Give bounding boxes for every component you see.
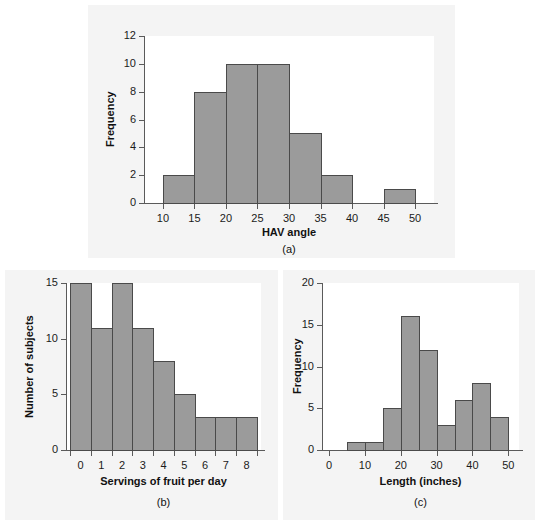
x-tick-label-a-8: 50 (400, 212, 430, 224)
bar (195, 417, 217, 451)
y-tick-a-5 (139, 64, 144, 65)
bar (215, 417, 237, 451)
x-tick-a-2 (226, 204, 227, 209)
y-axis-line-c (322, 283, 323, 451)
x-tick-label-c-4: 40 (457, 459, 487, 471)
y-tick-a-6 (139, 36, 144, 37)
x-tick-b-4 (153, 451, 154, 456)
y-tick-label-b-1: 5 (26, 387, 58, 399)
panel-caption-c: (c) (262, 496, 542, 508)
bar (419, 350, 438, 451)
x-tick-c-5 (508, 451, 509, 456)
bar (347, 442, 366, 451)
bar (174, 394, 196, 451)
bar (365, 442, 384, 451)
x-tick-b-9 (257, 451, 258, 456)
bar (437, 425, 456, 451)
y-tick-label-a-6: 12 (104, 29, 136, 41)
y-tick-a-3 (139, 120, 144, 121)
bar (321, 175, 354, 204)
y-tick-label-c-2: 10 (282, 360, 314, 372)
y-tick-b-3 (61, 283, 66, 284)
x-tick-b-6 (195, 451, 196, 456)
x-tick-a-6 (352, 204, 353, 209)
y-tick-a-2 (139, 147, 144, 148)
x-tick-label-a-3: 25 (242, 212, 272, 224)
bar (401, 316, 420, 451)
y-tick-label-c-1: 5 (282, 401, 314, 413)
x-tick-c-0 (329, 451, 330, 456)
x-tick-b-7 (215, 451, 216, 456)
x-tick-label-b-8: 8 (231, 459, 261, 471)
y-tick-b-1 (61, 394, 66, 395)
y-tick-label-a-2: 4 (104, 140, 136, 152)
x-tick-label-a-6: 40 (337, 212, 367, 224)
bar (289, 133, 322, 204)
x-tick-c-3 (437, 451, 438, 456)
x-tick-a-8 (415, 204, 416, 209)
bar (112, 283, 134, 451)
y-tick-label-b-2: 10 (26, 332, 58, 344)
bar (70, 283, 92, 451)
y-tick-a-4 (139, 92, 144, 93)
panel-caption-a: (a) (84, 243, 494, 255)
x-tick-b-3 (132, 451, 133, 456)
x-tick-label-c-0: 0 (314, 459, 344, 471)
y-tick-b-2 (61, 339, 66, 340)
chart-panel-a: Frequency HAV angle (a) 0246810121015202… (88, 5, 455, 258)
x-tick-label-a-5: 35 (306, 212, 336, 224)
bar (132, 328, 154, 451)
x-tick-b-8 (236, 451, 237, 456)
y-axis-line-b (66, 283, 67, 451)
bar (226, 64, 259, 204)
y-tick-label-a-4: 8 (104, 85, 136, 97)
x-tick-a-1 (194, 204, 195, 209)
y-tick-c-2 (317, 367, 322, 368)
bar (163, 175, 196, 204)
bar (91, 328, 113, 451)
chart-panel-c: Frequency Length (inches) (c) 0510152001… (283, 270, 535, 520)
x-tick-a-5 (321, 204, 322, 209)
x-tick-b-5 (174, 451, 175, 456)
y-axis-title-b: Number of subjects (23, 315, 35, 418)
y-tick-c-0 (317, 450, 322, 451)
x-tick-label-c-2: 20 (386, 459, 416, 471)
y-tick-label-b-0: 0 (26, 443, 58, 455)
bar (153, 361, 175, 451)
bar (455, 400, 474, 451)
x-tick-b-1 (91, 451, 92, 456)
x-tick-a-7 (384, 204, 385, 209)
x-tick-c-1 (365, 451, 366, 456)
y-tick-c-4 (317, 283, 322, 284)
bar (384, 189, 417, 204)
bar (194, 92, 227, 204)
x-tick-label-a-0: 10 (148, 212, 178, 224)
y-tick-label-c-4: 20 (282, 276, 314, 288)
bar (257, 64, 290, 204)
x-axis-title-c: Length (inches) (262, 475, 542, 487)
x-tick-c-4 (472, 451, 473, 456)
x-tick-label-c-5: 50 (493, 459, 523, 471)
x-tick-c-2 (401, 451, 402, 456)
bar (383, 408, 402, 451)
x-tick-label-a-4: 30 (274, 212, 304, 224)
y-tick-label-a-0: 0 (104, 196, 136, 208)
bar (236, 417, 258, 451)
x-tick-label-a-1: 15 (179, 212, 209, 224)
y-tick-c-1 (317, 408, 322, 409)
x-tick-label-a-2: 20 (211, 212, 241, 224)
y-axis-line-a (144, 36, 145, 204)
x-tick-label-c-3: 30 (422, 459, 452, 471)
x-tick-label-a-7: 45 (369, 212, 399, 224)
bar (490, 417, 509, 451)
x-tick-label-c-1: 10 (350, 459, 380, 471)
y-tick-b-0 (61, 450, 66, 451)
y-tick-a-0 (139, 203, 144, 204)
x-tick-a-3 (257, 204, 258, 209)
y-tick-label-c-0: 0 (282, 443, 314, 455)
y-tick-a-1 (139, 175, 144, 176)
figure-root: Frequency HAV angle (a) 0246810121015202… (0, 0, 542, 525)
x-axis-title-a: HAV angle (84, 226, 494, 238)
y-tick-label-a-3: 6 (104, 113, 136, 125)
x-tick-a-4 (289, 204, 290, 209)
